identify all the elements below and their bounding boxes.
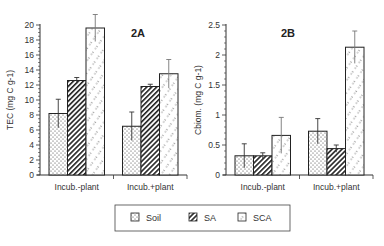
y-tick-label: 2.5	[208, 20, 220, 30]
y-tick-label: 4	[29, 140, 34, 150]
y-axis-label: Cbiom. (mg C g-1)	[193, 65, 203, 135]
bar-sa	[141, 87, 160, 176]
bar-sca	[86, 28, 105, 175]
legend-swatch-sca	[238, 213, 246, 221]
legend-label: Soil	[146, 213, 161, 223]
chart-2a: 02468101214161820Incub.-plantIncub.+plan…	[5, 15, 187, 193]
legend-swatch-sa	[189, 213, 197, 221]
y-tick-label: 14	[25, 65, 35, 75]
chart-title: 2B	[281, 27, 295, 39]
y-tick-label: 16	[25, 50, 35, 60]
y-tick-label: 12	[25, 80, 35, 90]
chart-2b: 00.511.522.5Incub.-plantIncub.+plant2BCb…	[193, 20, 373, 192]
y-tick-label: 2	[215, 50, 220, 60]
x-category-label: Incub.-plant	[55, 182, 100, 192]
legend-label: SA	[204, 213, 216, 223]
bar-sa	[327, 149, 346, 175]
y-tick-label: 1.5	[208, 80, 220, 90]
y-tick-label: 0.5	[208, 140, 220, 150]
y-tick-label: 18	[25, 35, 35, 45]
y-tick-label: 10	[25, 95, 35, 105]
y-tick-label: 20	[25, 20, 35, 30]
chart-title: 2A	[131, 27, 145, 39]
x-category-label: Incub.+plant	[313, 182, 360, 192]
figure: 02468101214161820Incub.-plantIncub.+plan…	[0, 0, 384, 246]
y-tick-label: 8	[29, 110, 34, 120]
legend: SoilSASCA	[115, 205, 290, 231]
bar-sca	[346, 47, 365, 175]
x-category-label: Incub.-plant	[241, 182, 286, 192]
bar-sca	[160, 74, 179, 175]
y-axis-label: TEC (mg C g-1)	[5, 70, 15, 130]
y-tick-label: 1	[215, 110, 220, 120]
y-tick-label: 0	[215, 170, 220, 180]
y-tick-label: 0	[29, 170, 34, 180]
x-category-label: Incub.+plant	[127, 182, 174, 192]
y-tick-label: 6	[29, 125, 34, 135]
legend-label: SCA	[253, 213, 272, 223]
bar-sa	[68, 81, 87, 176]
legend-swatch-soil	[131, 213, 139, 221]
y-tick-label: 2	[29, 155, 34, 165]
